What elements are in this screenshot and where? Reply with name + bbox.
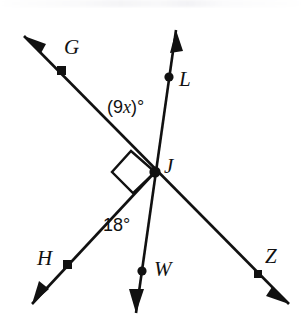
angle-label-9x: (9x)°	[107, 98, 144, 116]
arrowhead-l-icon	[170, 30, 183, 53]
point-dot-h	[63, 260, 72, 269]
point-dot-l	[164, 72, 173, 81]
geometry-diagram: G L H W Z J (9x)° 18°	[0, 0, 302, 332]
label-point-w: W	[154, 259, 172, 280]
geometry-canvas	[0, 0, 302, 332]
label-point-h: H	[37, 248, 52, 269]
ray-j-h	[32, 172, 155, 304]
label-vertex-j: J	[164, 156, 173, 177]
angle-9x-close: )°	[131, 97, 144, 117]
angle-9x-variable: x	[123, 97, 131, 117]
label-point-g: G	[64, 37, 79, 58]
label-point-z: Z	[265, 246, 277, 267]
right-angle-marker	[112, 151, 155, 193]
arrowhead-w-icon	[129, 289, 144, 313]
label-point-l: L	[179, 69, 191, 90]
point-dot-j-vertex	[149, 166, 160, 177]
arrowhead-h-icon	[32, 281, 49, 304]
point-dot-z	[254, 270, 262, 278]
angle-9x-open: (9	[107, 97, 123, 117]
angle-label-18-degrees: 18°	[103, 216, 130, 234]
point-dot-w	[137, 266, 146, 275]
point-dot-g	[57, 66, 66, 75]
arrowhead-z-icon	[266, 287, 289, 304]
arrowhead-g-icon	[24, 36, 46, 53]
